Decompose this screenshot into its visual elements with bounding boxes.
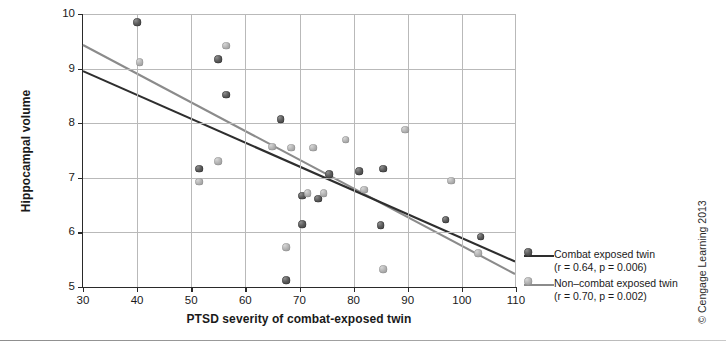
x-tick-mark xyxy=(191,287,192,292)
data-point xyxy=(133,18,141,26)
y-tick-label: 8 xyxy=(69,117,75,129)
legend-series-name-combat: Combat exposed twin xyxy=(554,248,655,260)
legend-series-name-noncombat: Non–combat exposed twin xyxy=(554,277,678,289)
data-point xyxy=(215,56,223,64)
gridline-vertical xyxy=(354,14,355,287)
legend-label-noncombat: Non–combat exposed twin (r = 0.70, p = 0… xyxy=(554,277,678,302)
y-tick-mark xyxy=(78,14,83,15)
y-axis-title-text: Hippocampal volume xyxy=(19,90,33,213)
data-point xyxy=(377,222,385,230)
gridline-vertical xyxy=(462,14,463,287)
data-point xyxy=(320,189,328,197)
y-tick-label: 7 xyxy=(69,172,75,184)
data-point xyxy=(477,233,485,241)
x-tick-mark xyxy=(245,287,246,292)
data-point xyxy=(269,143,277,151)
x-tick-label: 100 xyxy=(452,295,471,307)
x-axis-title: PTSD severity of combat-exposed twin xyxy=(82,312,516,326)
x-tick-mark xyxy=(83,287,84,292)
data-point xyxy=(196,165,204,173)
data-point xyxy=(309,144,317,152)
y-tick-mark xyxy=(78,123,83,124)
x-tick-label: 70 xyxy=(293,295,306,307)
x-tick-mark xyxy=(354,287,355,292)
gridline-vertical xyxy=(191,14,192,287)
legend-stat-noncombat: (r = 0.70, p = 0.002) xyxy=(554,290,647,302)
y-tick-mark xyxy=(78,69,83,70)
data-point xyxy=(361,186,369,194)
data-point xyxy=(223,42,231,50)
chart-legend: Combat exposed twin (r = 0.64, p = 0.006… xyxy=(524,248,704,306)
copyright-notice: © Cengage Learning 2013 xyxy=(694,202,710,322)
data-point xyxy=(380,165,388,173)
figure-container: Hippocampal volume 567891030405060708090… xyxy=(0,0,726,347)
data-point xyxy=(282,243,290,251)
data-point xyxy=(282,277,290,285)
data-point xyxy=(401,126,409,134)
x-tick-mark xyxy=(462,287,463,292)
x-tick-label: 80 xyxy=(347,295,360,307)
gridline-vertical xyxy=(300,14,301,287)
bottom-divider xyxy=(0,340,726,341)
data-point xyxy=(215,158,223,166)
y-tick-label: 9 xyxy=(69,63,75,75)
legend-marker-noncombat xyxy=(524,278,554,291)
plot-right-border xyxy=(515,14,516,287)
x-tick-label: 110 xyxy=(507,295,525,307)
data-point xyxy=(325,170,333,178)
gridline-vertical xyxy=(245,14,246,287)
legend-label-combat: Combat exposed twin (r = 0.64, p = 0.006… xyxy=(554,248,655,273)
gridline-vertical xyxy=(137,14,138,287)
data-point xyxy=(298,220,306,228)
legend-marker-combat xyxy=(524,249,554,262)
data-point xyxy=(355,167,363,175)
x-tick-mark xyxy=(300,287,301,292)
legend-item-combat[interactable]: Combat exposed twin (r = 0.64, p = 0.006… xyxy=(524,248,704,273)
data-point xyxy=(474,249,482,257)
data-point xyxy=(442,216,450,224)
y-tick-label: 6 xyxy=(69,227,75,239)
y-tick-label: 5 xyxy=(69,281,75,293)
y-tick-mark xyxy=(78,178,83,179)
gridline-vertical xyxy=(408,14,409,287)
data-point xyxy=(342,136,350,144)
x-tick-mark xyxy=(516,287,517,292)
copyright-text: © Cengage Learning 2013 xyxy=(696,200,708,323)
data-point xyxy=(447,177,455,185)
x-tick-label: 30 xyxy=(77,295,90,307)
y-axis-title: Hippocampal volume xyxy=(18,14,34,288)
x-tick-label: 90 xyxy=(401,295,414,307)
x-tick-label: 60 xyxy=(239,295,252,307)
plot-area: 567891030405060708090100110 xyxy=(82,14,516,288)
data-point xyxy=(223,91,231,99)
data-point xyxy=(380,265,388,273)
legend-stat-combat: (r = 0.64, p = 0.006) xyxy=(554,261,647,273)
data-point xyxy=(277,116,285,124)
x-tick-label: 50 xyxy=(185,295,198,307)
x-tick-mark xyxy=(408,287,409,292)
data-point xyxy=(288,144,296,152)
data-point xyxy=(196,178,204,186)
x-tick-label: 40 xyxy=(131,295,144,307)
y-tick-label: 10 xyxy=(62,8,75,20)
legend-item-noncombat[interactable]: Non–combat exposed twin (r = 0.70, p = 0… xyxy=(524,277,704,302)
data-point xyxy=(136,58,144,66)
data-point xyxy=(304,189,312,197)
x-tick-mark xyxy=(137,287,138,292)
y-tick-mark xyxy=(78,232,83,233)
